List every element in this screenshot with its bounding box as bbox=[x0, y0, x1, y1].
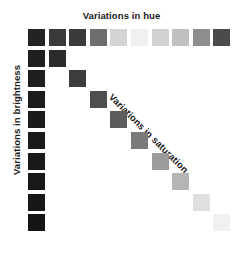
swatch-brightness-9 bbox=[28, 194, 45, 211]
swatch-brightness-8 bbox=[28, 173, 45, 190]
swatch-grid bbox=[28, 29, 233, 234]
swatch-saturation-2 bbox=[69, 70, 86, 87]
hue-axis-label: Variations in hue bbox=[0, 11, 243, 21]
swatch-hue-3 bbox=[69, 29, 86, 46]
swatch-brightness-3 bbox=[28, 70, 45, 87]
swatch-brightness-5 bbox=[28, 111, 45, 128]
swatch-saturation-4 bbox=[110, 111, 127, 128]
swatch-hue-10 bbox=[213, 29, 230, 46]
swatch-hue-4 bbox=[90, 29, 107, 46]
swatch-saturation-7 bbox=[172, 173, 189, 190]
swatch-brightness-6 bbox=[28, 132, 45, 149]
swatch-hue-6 bbox=[131, 29, 148, 46]
swatch-saturation-1 bbox=[49, 50, 66, 67]
swatch-brightness-10 bbox=[28, 214, 45, 231]
swatch-saturation-8 bbox=[193, 194, 210, 211]
brightness-axis-label: Variations in brightness bbox=[12, 40, 22, 200]
swatch-hue-5 bbox=[110, 29, 127, 46]
swatch-hue-7 bbox=[152, 29, 169, 46]
swatch-hue-9 bbox=[193, 29, 210, 46]
swatch-saturation-9 bbox=[213, 214, 230, 231]
swatch-hue-8 bbox=[172, 29, 189, 46]
swatch-hue-2 bbox=[49, 29, 66, 46]
hsb-variations-figure: Variations in hue Variations in brightne… bbox=[0, 0, 243, 253]
swatch-brightness-1 bbox=[28, 29, 45, 46]
swatch-brightness-7 bbox=[28, 153, 45, 170]
swatch-brightness-4 bbox=[28, 91, 45, 108]
swatch-brightness-2 bbox=[28, 50, 45, 67]
swatch-saturation-5 bbox=[131, 132, 148, 149]
swatch-saturation-6 bbox=[152, 153, 169, 170]
swatch-saturation-3 bbox=[90, 91, 107, 108]
